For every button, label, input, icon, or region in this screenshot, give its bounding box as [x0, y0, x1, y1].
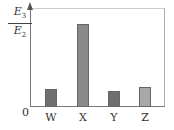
- y-label-numerator: E3: [8, 6, 32, 24]
- bar-z: [139, 87, 151, 107]
- y-label-denominator: E2: [8, 24, 32, 41]
- x-tick-label-x: X: [73, 111, 93, 124]
- bar-w: [45, 89, 57, 107]
- x-tick-label-y: Y: [104, 111, 124, 124]
- y-axis-label: E3 E2: [8, 6, 32, 41]
- bar-y: [108, 91, 120, 107]
- origin-label: 0: [22, 106, 29, 119]
- bar-x: [77, 24, 89, 107]
- x-tick-label-z: Z: [135, 111, 155, 124]
- x-tick-label-w: W: [41, 111, 61, 124]
